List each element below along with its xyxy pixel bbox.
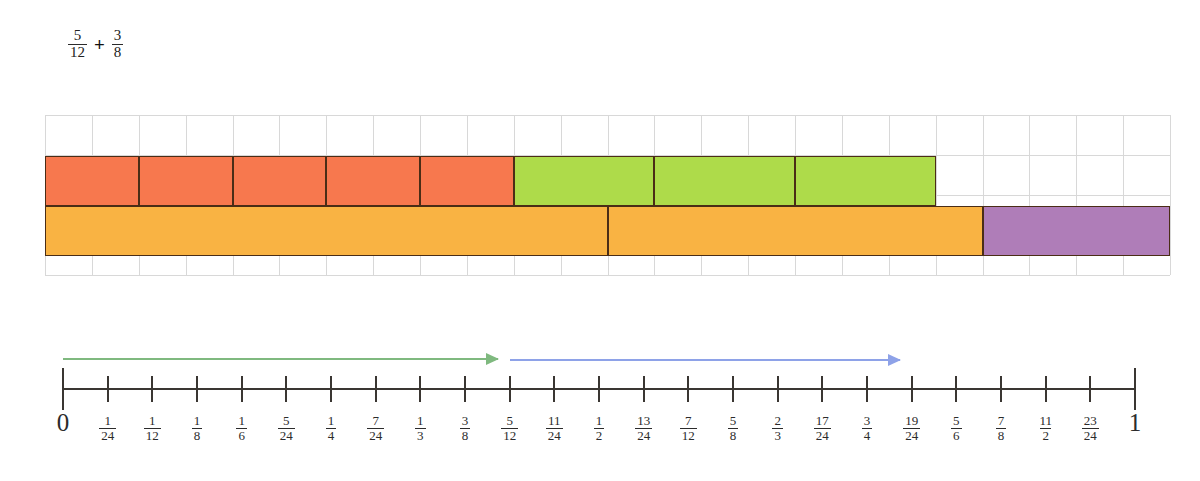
axis-label-fraction: 124: [99, 414, 116, 442]
axis-label-denominator: 4: [326, 428, 337, 442]
axis-label-fraction: 1124: [546, 414, 563, 442]
axis-label-numerator: 7: [683, 414, 694, 427]
axis-label-fraction: 23: [772, 414, 783, 442]
axis-label-denominator: 8: [460, 428, 471, 442]
arrow-shaft: [510, 359, 900, 361]
bar-cell-first-half: [45, 206, 608, 256]
axis-label-numerator: 1: [326, 414, 337, 427]
number-line: 0124112181652414724133851211241213247125…: [0, 330, 1200, 480]
axis-label-denominator: 8: [996, 428, 1007, 442]
axis-label-fraction: 14: [326, 414, 337, 442]
tick-minor: [911, 376, 913, 402]
axis-label-fraction: 13: [415, 414, 426, 442]
axis-label-fraction: 1724: [814, 414, 831, 442]
tick-minor: [330, 376, 332, 402]
bar-cell-second-addend: [654, 156, 795, 206]
bar-model: [45, 115, 1170, 275]
axis-label-fraction: 112: [144, 414, 161, 442]
axis-label-numerator: 1: [192, 414, 203, 427]
second-addend-denominator: 8: [112, 44, 124, 60]
tick-minor: [821, 376, 823, 402]
axis-label-fraction: 38: [460, 414, 471, 442]
axis-label-fraction: 16: [236, 414, 247, 442]
axis-label-fraction: 1324: [635, 414, 652, 442]
axis-label-denominator: 24: [367, 428, 384, 442]
axis-label-denominator: 4: [862, 428, 873, 442]
axis-label-denominator: 24: [278, 428, 295, 442]
axis-label-numerator: 1: [147, 414, 158, 427]
bar-cell-second-part: [608, 206, 983, 256]
axis-label-fraction: 12: [594, 414, 605, 442]
axis-label-numerator: 1: [236, 414, 247, 427]
first-addend-fraction: 5 12: [68, 28, 87, 60]
grid-line-horizontal: [45, 115, 1170, 116]
axis-label-fraction: 56: [951, 414, 962, 442]
grid-line-vertical: [1170, 115, 1171, 275]
tick-minor: [151, 376, 153, 402]
axis-label-denominator: 6: [236, 428, 247, 442]
axis-label-numerator: 5: [504, 414, 515, 427]
axis-label-denominator: 24: [635, 428, 652, 442]
grid-line-horizontal: [45, 275, 1170, 276]
axis-label-fraction: 724: [367, 414, 384, 442]
tick-minor: [375, 376, 377, 402]
axis-label-numerator: 13: [635, 414, 652, 427]
tick-minor: [1000, 376, 1002, 402]
tick-minor: [955, 376, 957, 402]
tick-minor: [1045, 376, 1047, 402]
bar-cell-first-addend: [139, 156, 233, 206]
second-addend-numerator: 3: [112, 28, 124, 43]
tick-minor: [419, 376, 421, 402]
axis-label-fraction: 1924: [903, 414, 920, 442]
tick-minor: [598, 376, 600, 402]
tick-minor: [241, 376, 243, 402]
tick-major: [62, 368, 64, 410]
second-addend-fraction: 3 8: [112, 28, 124, 60]
axis-label-fraction: 712: [680, 414, 697, 442]
tick-minor: [777, 376, 779, 402]
axis-label-denominator: 12: [144, 428, 161, 442]
axis-label-fraction: 34: [862, 414, 873, 442]
axis-label-numerator: 3: [862, 414, 873, 427]
axis-label-denominator: 12: [501, 428, 518, 442]
arrow-head: [486, 353, 499, 365]
axis-label-denominator: 6: [951, 428, 962, 442]
diagram-canvas: 5 12 + 3 8 01241121816524147241338512112…: [0, 0, 1200, 481]
axis-label-numerator: 5: [951, 414, 962, 427]
axis-label-denominator: 24: [814, 428, 831, 442]
axis-label-fraction: 78: [996, 414, 1007, 442]
arrow-green: [63, 358, 498, 360]
tick-minor: [196, 376, 198, 402]
axis-label-numerator: 1: [594, 414, 605, 427]
tick-minor: [464, 376, 466, 402]
axis-label-denominator: 3: [772, 428, 783, 442]
tick-minor: [553, 376, 555, 402]
axis-label-numerator: 19: [903, 414, 920, 427]
bar-cell-first-addend: [420, 156, 514, 206]
bar-cell-first-addend: [326, 156, 420, 206]
tick-minor: [285, 376, 287, 402]
axis-label-denominator: 8: [192, 428, 203, 442]
arrow-head: [888, 354, 901, 366]
axis-label-numerator: 7: [996, 414, 1007, 427]
fraction-expression: 5 12 + 3 8: [68, 28, 123, 60]
bar-cell-remainder: [983, 206, 1171, 256]
tick-minor: [732, 376, 734, 402]
axis-label-numerator: 11: [546, 414, 563, 427]
axis-label-numerator: 23: [1082, 414, 1099, 427]
axis-label-numerator: 11: [1037, 414, 1054, 427]
axis-label-denominator: 2: [1040, 428, 1051, 442]
tick-minor: [1089, 376, 1091, 402]
axis-label-fraction: 112: [1037, 414, 1054, 442]
arrow-blue: [510, 359, 900, 361]
tick-major: [1134, 368, 1136, 410]
tick-minor: [107, 376, 109, 402]
axis-label-denominator: 24: [99, 428, 116, 442]
axis-label-numerator: 5: [281, 414, 292, 427]
bar-cell-second-addend: [795, 156, 936, 206]
axis-label-numerator: 1: [102, 414, 113, 427]
axis-label-numerator: 5: [728, 414, 739, 427]
bar-cell-first-addend: [45, 156, 139, 206]
axis-label-denominator: 24: [1082, 428, 1099, 442]
axis-label-numerator: 1: [415, 414, 426, 427]
